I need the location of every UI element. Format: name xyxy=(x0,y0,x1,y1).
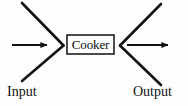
input-label: Input xyxy=(7,84,37,100)
input-chevron xyxy=(22,3,64,81)
output-label: Output xyxy=(133,84,172,100)
process-flow-diagram: Cooker Input Output xyxy=(0,0,188,106)
process-box-label: Cooker xyxy=(67,35,114,54)
